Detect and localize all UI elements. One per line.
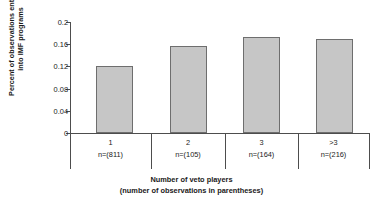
x-category-count-4: n=(216) bbox=[298, 149, 369, 161]
y-tick-label-0.16: 0.16 bbox=[22, 40, 68, 49]
x-category-name-2: 2 bbox=[151, 137, 225, 149]
y-tick-label-0.2: 0.2 bbox=[22, 18, 68, 27]
y-axis-title-line-2: into IMF programs bbox=[16, 7, 26, 71]
category-separator-4 bbox=[369, 133, 370, 169]
x-category-count-2: n=(105) bbox=[151, 149, 225, 161]
chart-figure: Percent of observations entering into IM… bbox=[0, 0, 383, 204]
y-tick-label-0.08: 0.08 bbox=[22, 85, 68, 94]
y-tick-label-0: 0 bbox=[22, 129, 68, 138]
plot-area: 0.2 0.16 0.12 0.08 0.04 0 1 n=(811) 2 n=… bbox=[70, 22, 370, 133]
x-axis-title: Number of veto players (number of observ… bbox=[0, 174, 383, 196]
y-axis-title-line-1: Percent of observations entering bbox=[7, 0, 17, 96]
bar-category-4 bbox=[316, 39, 353, 133]
bar-category-1 bbox=[96, 66, 133, 133]
x-category-name-1: 1 bbox=[70, 137, 151, 149]
y-tick-label-0.04: 0.04 bbox=[22, 107, 68, 116]
x-category-count-1: n=(811) bbox=[70, 149, 151, 161]
x-category-label-2: 2 n=(105) bbox=[151, 137, 225, 161]
x-category-count-3: n=(164) bbox=[225, 149, 298, 161]
x-axis-title-line-1: Number of veto players bbox=[0, 174, 383, 185]
x-axis-line bbox=[70, 133, 370, 134]
y-axis-line bbox=[70, 22, 71, 133]
x-category-label-1: 1 n=(811) bbox=[70, 137, 151, 161]
y-tick-label-0.12: 0.12 bbox=[22, 62, 68, 71]
x-category-name-4: >3 bbox=[298, 137, 369, 149]
x-category-label-4: >3 n=(216) bbox=[298, 137, 369, 161]
x-category-label-3: 3 n=(164) bbox=[225, 137, 298, 161]
x-category-name-3: 3 bbox=[225, 137, 298, 149]
bar-category-3 bbox=[243, 37, 280, 133]
x-axis-title-line-2: (number of observations in parentheses) bbox=[0, 185, 383, 196]
bar-category-2 bbox=[170, 46, 207, 133]
